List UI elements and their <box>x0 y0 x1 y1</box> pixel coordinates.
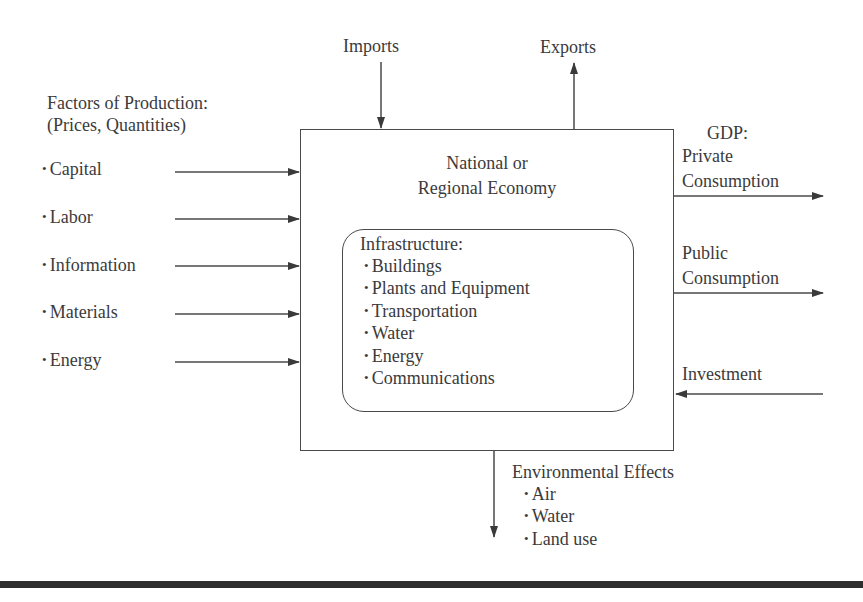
factor-labor: Labor <box>42 206 93 230</box>
environmental-effects-title: Environmental Effects <box>512 462 674 484</box>
factor-capital: Capital <box>42 158 102 182</box>
private-consumption-line2: Consumption <box>682 170 779 192</box>
infrastructure-item: Transportation <box>360 301 530 324</box>
infrastructure-item: Buildings <box>360 256 530 279</box>
bottom-rule <box>0 581 863 588</box>
environmental-effects: Environmental Effects Air Water Land use <box>512 462 674 551</box>
infrastructure-list: Infrastructure: Buildings Plants and Equ… <box>360 234 530 391</box>
environmental-effect-item: Air <box>512 484 674 507</box>
public-consumption-line1: Public <box>682 242 728 264</box>
infrastructure-item: Energy <box>360 346 530 369</box>
factor-information: Information <box>42 254 136 278</box>
factor-energy: Energy <box>42 349 101 373</box>
private-consumption-line1: Private <box>682 145 733 167</box>
exports-label: Exports <box>540 36 596 58</box>
investment-label: Investment <box>682 363 762 385</box>
factors-title: Factors of Production: <box>47 92 208 114</box>
public-consumption-line2: Consumption <box>682 267 779 289</box>
factor-materials: Materials <box>42 301 118 325</box>
infrastructure-title: Infrastructure: <box>360 234 530 256</box>
imports-label: Imports <box>343 35 399 57</box>
gdp-title: GDP: <box>707 122 748 144</box>
economy-title-line1: National or <box>300 152 674 174</box>
environmental-effect-item: Land use <box>512 529 674 552</box>
factors-of-production-heading: Factors of Production: (Prices, Quantiti… <box>47 92 208 136</box>
infrastructure-item: Water <box>360 323 530 346</box>
factors-subtitle: (Prices, Quantities) <box>47 114 208 136</box>
economy-title-line2: Regional Economy <box>300 177 674 199</box>
infrastructure-item: Plants and Equipment <box>360 278 530 301</box>
infrastructure-item: Communications <box>360 368 530 391</box>
environmental-effect-item: Water <box>512 506 674 529</box>
